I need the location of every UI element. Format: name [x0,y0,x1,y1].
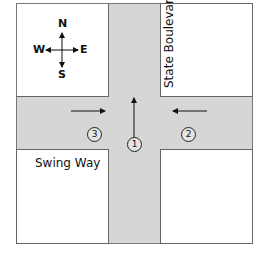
vehicle-1-marker: 1 [127,137,142,152]
arrows-layer [0,0,257,255]
vehicle-2-marker: 2 [181,127,196,142]
compass-icon [46,33,78,67]
vehicle-3-marker: 3 [87,127,102,142]
